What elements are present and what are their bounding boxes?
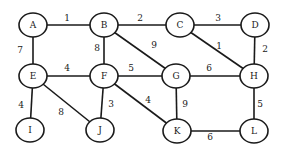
node-e: E xyxy=(19,64,47,88)
edge-weight-label: 6 xyxy=(206,63,212,73)
edge-weight-label: 4 xyxy=(18,100,24,110)
node-label: A xyxy=(29,20,37,30)
edge-weight-label: 3 xyxy=(215,13,221,23)
node-label: D xyxy=(251,20,258,30)
edge-weight-label: 9 xyxy=(182,99,188,109)
edge-weight-label: 2 xyxy=(262,44,268,54)
node-label: I xyxy=(28,125,32,135)
edge-weight-labels-layer: 123789124564834956 xyxy=(17,13,268,142)
edge-weight-label: 5 xyxy=(128,63,134,73)
weighted-graph-diagram: 123789124564834956 ABCDEFGHIJKL xyxy=(0,0,281,153)
node-l: L xyxy=(240,119,268,143)
node-label: F xyxy=(101,71,107,81)
node-f: F xyxy=(90,64,118,88)
edge-weight-label: 1 xyxy=(216,41,222,51)
edge-weight-label: 1 xyxy=(64,13,70,23)
node-b: B xyxy=(90,13,118,37)
node-label: J xyxy=(97,125,102,135)
edge-weight-label: 8 xyxy=(94,43,100,53)
node-label: L xyxy=(251,126,257,136)
node-j: J xyxy=(86,118,114,142)
node-label: C xyxy=(177,20,184,30)
edge-weight-label: 7 xyxy=(17,45,23,55)
node-label: H xyxy=(250,71,258,81)
edge-weight-label: 4 xyxy=(64,63,70,73)
edge-weight-label: 9 xyxy=(151,40,157,50)
edge-weight-label: 5 xyxy=(257,99,263,109)
node-label: G xyxy=(172,71,179,81)
node-d: D xyxy=(241,13,269,37)
node-g: G xyxy=(162,64,190,88)
node-label: B xyxy=(101,20,108,30)
nodes-layer: ABCDEFGHIJKL xyxy=(16,13,269,143)
node-label: K xyxy=(174,126,181,136)
node-k: K xyxy=(163,119,191,143)
node-a: A xyxy=(19,13,47,37)
node-i: I xyxy=(16,118,44,142)
edge-weight-label: 6 xyxy=(207,132,213,142)
node-c: C xyxy=(166,13,194,37)
node-label: E xyxy=(30,71,37,81)
node-h: H xyxy=(240,64,268,88)
edge-weight-label: 4 xyxy=(145,95,151,105)
edge-weight-label: 8 xyxy=(58,107,64,117)
edge-weight-label: 3 xyxy=(108,99,114,109)
edge-weight-label: 2 xyxy=(137,13,143,23)
